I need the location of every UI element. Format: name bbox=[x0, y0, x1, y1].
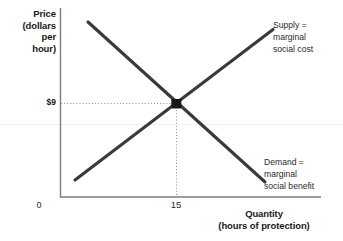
equilibrium-marker bbox=[171, 99, 181, 108]
x-axis-tick-label-quantity: 15 bbox=[163, 199, 189, 211]
chart-screenshot: Price (dollars per hour) Quantity (hours… bbox=[0, 0, 343, 241]
y-axis-title: Price (dollars per hour) bbox=[2, 8, 56, 54]
x-axis-title: Quantity (hours of protection) bbox=[186, 208, 342, 231]
demand-curve-annotation: Demand = marginal social benefit bbox=[264, 156, 343, 193]
y-axis-tick-label-price: $9 bbox=[36, 97, 56, 107]
supply-curve-annotation: Supply = marginal social cost bbox=[273, 19, 343, 56]
origin-label: 0 bbox=[32, 200, 46, 211]
